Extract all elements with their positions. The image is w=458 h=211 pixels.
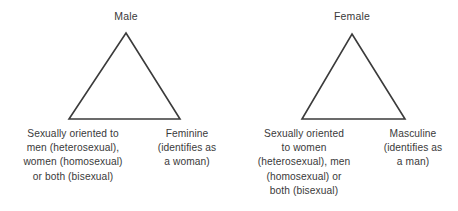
text-line: (homosexual) or — [237, 170, 371, 184]
text-line: (heterosexual), men — [237, 155, 371, 169]
triangle-outline-male — [69, 33, 180, 119]
text-line: or both (bisexual) — [3, 170, 143, 184]
male-triangle-group: Male Sexually oriented to men (heterosex… — [0, 0, 229, 211]
text-line: a man) — [371, 155, 455, 169]
apex-label-female: Female — [292, 10, 412, 23]
text-line: women (homosexual) — [3, 155, 143, 169]
text-line: both (bisexual) — [237, 184, 371, 198]
text-line: (identifies as — [146, 141, 228, 155]
female-triangle-shape — [229, 28, 458, 126]
text-line: a woman) — [146, 155, 228, 169]
male-triangle-shape — [0, 28, 229, 126]
text-line: men (heterosexual), — [3, 141, 143, 155]
text-line: Masculine — [371, 127, 455, 141]
triangle-diagram: Male Sexually oriented to men (heterosex… — [0, 0, 458, 211]
text-line: Sexually oriented — [237, 127, 371, 141]
female-triangle-group: Female Sexually oriented to women (heter… — [229, 0, 458, 211]
female-sexual-orientation-text: Sexually oriented to women (heterosexual… — [237, 127, 371, 198]
text-line: Feminine — [146, 127, 228, 141]
male-gender-identity-text: Feminine (identifies as a woman) — [146, 127, 228, 170]
triangle-outline-female — [302, 34, 405, 119]
text-line: to women — [237, 141, 371, 155]
female-gender-identity-text: Masculine (identifies as a man) — [371, 127, 455, 170]
text-line: (identifies as — [371, 141, 455, 155]
text-line: Sexually oriented to — [3, 127, 143, 141]
apex-label-male: Male — [66, 10, 186, 23]
male-sexual-orientation-text: Sexually oriented to men (heterosexual),… — [3, 127, 143, 184]
